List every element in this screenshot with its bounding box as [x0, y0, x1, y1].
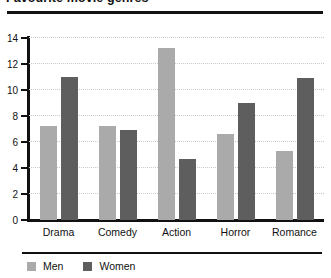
x-axis-label: Drama [43, 226, 75, 238]
bar [238, 103, 255, 220]
x-axis-label: Horror [221, 226, 251, 238]
bar [99, 126, 116, 220]
bar [179, 159, 196, 220]
bar [40, 126, 57, 220]
y-tick-label: 0 [12, 215, 18, 226]
bar [61, 77, 78, 220]
legend-label: Men [43, 260, 63, 272]
x-axis-label: Romance [272, 226, 317, 238]
x-axis-labels: DramaComedyActionHorrorRomance [29, 226, 324, 244]
y-tick-label: 2 [12, 189, 18, 200]
bar-chart: Favourite movie genres 02468101214 Drama… [0, 0, 331, 278]
title-divider [7, 11, 323, 14]
gridline [29, 63, 324, 64]
y-tick-label: 14 [7, 33, 18, 44]
x-axis-label: Comedy [98, 226, 137, 238]
bar [276, 151, 293, 220]
y-tick-label: 4 [12, 163, 18, 174]
x-axis-label: Action [162, 226, 191, 238]
y-axis-ticks: 02468101214 [0, 38, 27, 220]
legend-item: Men [27, 260, 63, 272]
legend-divider [22, 252, 322, 254]
plot-area [29, 38, 324, 220]
bar [158, 48, 175, 220]
legend-swatch-icon [27, 262, 36, 271]
y-tick-label: 10 [7, 85, 18, 96]
chart-title: Favourite movie genres [6, 0, 149, 5]
gridline [29, 37, 324, 38]
legend-label: Women [99, 260, 135, 272]
legend-item: Women [83, 260, 135, 272]
chart-legend: MenWomen [27, 259, 135, 273]
legend-swatch-icon [83, 262, 92, 271]
bar [120, 130, 137, 220]
y-tick-label: 6 [12, 137, 18, 148]
bar [217, 134, 234, 220]
y-tick-label: 8 [12, 111, 18, 122]
y-tick-label: 12 [7, 59, 18, 70]
bar [297, 78, 314, 220]
